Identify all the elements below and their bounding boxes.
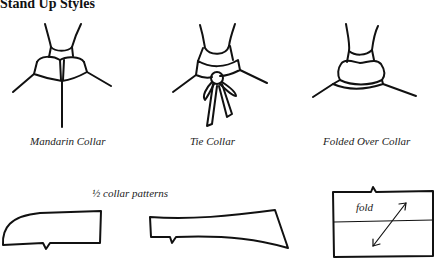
folded-pattern-shape xyxy=(333,187,433,257)
folded-over-collar-caption: Folded Over Collar xyxy=(323,135,410,147)
mandarin-collar-drawing xyxy=(13,24,111,127)
pattern-caption: ½ collar patterns xyxy=(92,187,168,199)
tie-pattern-shape xyxy=(150,210,288,248)
collar-illustrations xyxy=(0,0,435,262)
tie-collar-drawing xyxy=(173,24,267,126)
mandarin-pattern-shape xyxy=(3,211,101,249)
folded-over-collar-drawing xyxy=(313,24,416,97)
mandarin-collar-caption: Mandarin Collar xyxy=(30,135,105,147)
tie-collar-caption: Tie Collar xyxy=(190,135,235,147)
fold-label: fold xyxy=(356,201,373,213)
